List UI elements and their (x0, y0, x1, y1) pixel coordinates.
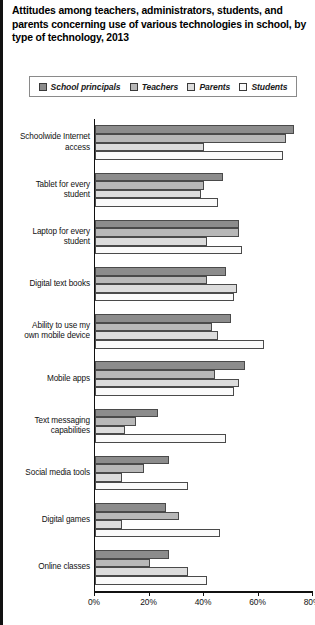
bar-group (95, 355, 312, 402)
category-label-line: Laptop for every (4, 227, 90, 237)
category-label-line: Text messaging (4, 416, 90, 426)
category-label: Digital games (4, 515, 90, 525)
bar (95, 520, 122, 529)
x-axis-tick (312, 591, 313, 596)
category-label-line: Social media tools (4, 468, 90, 478)
category-label-line: student (4, 237, 90, 247)
legend-item-1[interactable]: Teachers (130, 82, 179, 92)
bar (95, 228, 239, 237)
category-label-line: Mobile apps (4, 374, 90, 384)
bar (95, 503, 166, 512)
bar (95, 417, 136, 426)
bar (95, 576, 207, 585)
chart-page: Attitudes among teachers, administrators… (0, 0, 315, 625)
x-axis-tick-label: 20% (140, 597, 156, 607)
x-axis-tick (258, 591, 259, 596)
bar (95, 198, 218, 207)
bar (95, 464, 144, 473)
legend-item-label: Teachers (142, 82, 179, 92)
category-label-line: Digital text books (4, 279, 90, 289)
bar (95, 143, 204, 152)
category-label-line: Digital games (4, 515, 90, 525)
bar (95, 482, 188, 491)
category-label: Laptop for everystudent (4, 227, 90, 247)
category-label: Schoolwide Internetaccess (4, 132, 90, 152)
x-axis-tick (149, 591, 150, 596)
category-label: Tablet for everystudent (4, 180, 90, 200)
bar (95, 361, 245, 370)
category-label: Online classes (4, 562, 90, 572)
x-axis-tick-label: 0% (88, 597, 100, 607)
category-label: Digital text books (4, 279, 90, 289)
plot-area (94, 119, 312, 591)
bar (95, 409, 158, 418)
x-axis-tick (203, 591, 204, 596)
category-label-line: own mobile device (4, 331, 90, 341)
bar (95, 370, 215, 379)
category-label: Mobile apps (4, 374, 90, 384)
bar (95, 473, 122, 482)
category-label-line: capabilities (4, 426, 90, 436)
category-label-line: Tablet for every (4, 180, 90, 190)
bar (95, 529, 220, 538)
legend-swatch-icon (39, 83, 47, 91)
category-axis-labels: Schoolwide InternetaccessTablet for ever… (3, 119, 90, 591)
bar (95, 456, 169, 465)
legend-item-3[interactable]: Students (239, 82, 287, 92)
bar-group (95, 261, 312, 308)
bar (95, 550, 169, 559)
category-label: Text messagingcapabilities (4, 416, 90, 436)
bar-group (95, 308, 312, 355)
bar (95, 340, 264, 349)
category-label-line: Online classes (4, 562, 90, 572)
bar (95, 293, 234, 302)
page-title: Attitudes among teachers, administrators… (12, 4, 312, 45)
legend-item-2[interactable]: Parents (187, 82, 230, 92)
bar (95, 237, 207, 246)
legend-item-label: School principals (51, 82, 121, 92)
legend-item-label: Parents (199, 82, 230, 92)
x-axis-tick (94, 591, 95, 596)
bar (95, 267, 226, 276)
bar-group (95, 166, 312, 213)
legend-item-0[interactable]: School principals (39, 82, 121, 92)
bar (95, 314, 231, 323)
category-label-line: student (4, 190, 90, 200)
category-label: Social media tools (4, 468, 90, 478)
bar (95, 173, 223, 182)
bar (95, 387, 234, 396)
bar (95, 151, 283, 160)
bar (95, 220, 239, 229)
bar-group (95, 544, 312, 591)
category-label-line: Ability to use my (4, 321, 90, 331)
bar-group (95, 213, 312, 260)
bar-group (95, 449, 312, 496)
legend-swatch-icon (187, 83, 195, 91)
bar (95, 331, 218, 340)
bar (95, 434, 226, 443)
bar (95, 426, 125, 435)
bar-group (95, 402, 312, 449)
bar (95, 134, 286, 143)
bar (95, 284, 237, 293)
bar (95, 567, 188, 576)
x-axis-tick-label: 40% (195, 597, 211, 607)
bar (95, 323, 212, 332)
chart-legend: School principalsTeachersParentsStudents (29, 76, 297, 97)
x-axis-tick-label: 80% (304, 597, 315, 607)
category-label-line: access (4, 143, 90, 153)
bar (95, 125, 294, 134)
bar (95, 190, 201, 199)
legend-swatch-icon (239, 83, 247, 91)
bar (95, 512, 179, 521)
bar (95, 246, 242, 255)
category-label: Ability to use myown mobile device (4, 321, 90, 341)
x-axis-tick-label: 60% (249, 597, 265, 607)
bar (95, 379, 239, 388)
legend-swatch-icon (130, 83, 138, 91)
legend-item-label: Students (251, 82, 287, 92)
category-label-line: Schoolwide Internet (4, 132, 90, 142)
bar (95, 559, 150, 568)
bar-group (95, 119, 312, 166)
bar (95, 276, 207, 285)
